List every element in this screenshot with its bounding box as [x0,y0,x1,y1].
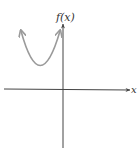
x-axis [4,89,130,90]
y-axis-label: f(x) [55,11,75,24]
x-axis-label: x [131,84,137,95]
parabola-curve [21,31,60,66]
function-graph: f(x) x [0,0,138,152]
